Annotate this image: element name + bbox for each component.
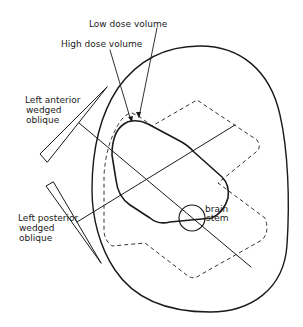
anterior-label-3: oblique [26,115,60,125]
beam-diagram: Low dose volume High dose volume Left an… [0,0,303,327]
anterior-label-2: wedged [26,105,62,115]
high-dose-label: High dose volume [61,39,143,49]
posterior-label-2: wedged [19,223,55,233]
low-dose-volume [104,100,267,278]
high-dose-leader [110,50,131,121]
anterior-label-1: Left anterior [25,95,81,105]
posterior-label-3: oblique [19,233,53,243]
low-dose-label: Low dose volume [89,19,168,29]
brain-stem-label-2: stem [206,213,229,223]
posterior-label-1: Left posterior [18,213,78,223]
head-outline [92,46,288,312]
anterior-beam-axis [79,123,251,267]
